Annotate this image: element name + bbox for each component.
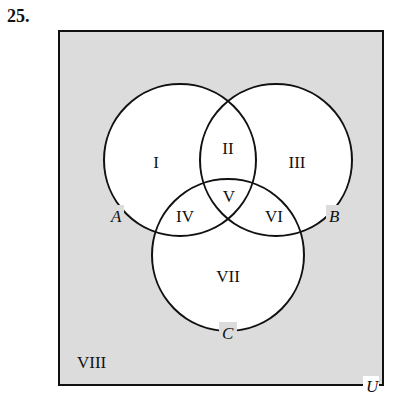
region-vii: VII bbox=[216, 267, 240, 286]
region-viii: VIII bbox=[77, 353, 107, 372]
set-label-a: A bbox=[110, 207, 122, 226]
region-vi: VI bbox=[265, 207, 283, 226]
region-iv: IV bbox=[176, 207, 195, 226]
set-label-c: C bbox=[222, 324, 234, 343]
universe-label: U bbox=[366, 377, 380, 396]
region-ii: II bbox=[222, 139, 234, 158]
venn-diagram: A B C U I II III IV V VI VII VIII bbox=[0, 0, 414, 410]
region-i: I bbox=[153, 153, 159, 172]
region-iii: III bbox=[289, 153, 306, 172]
set-label-b: B bbox=[329, 207, 340, 226]
region-v: V bbox=[223, 187, 236, 206]
